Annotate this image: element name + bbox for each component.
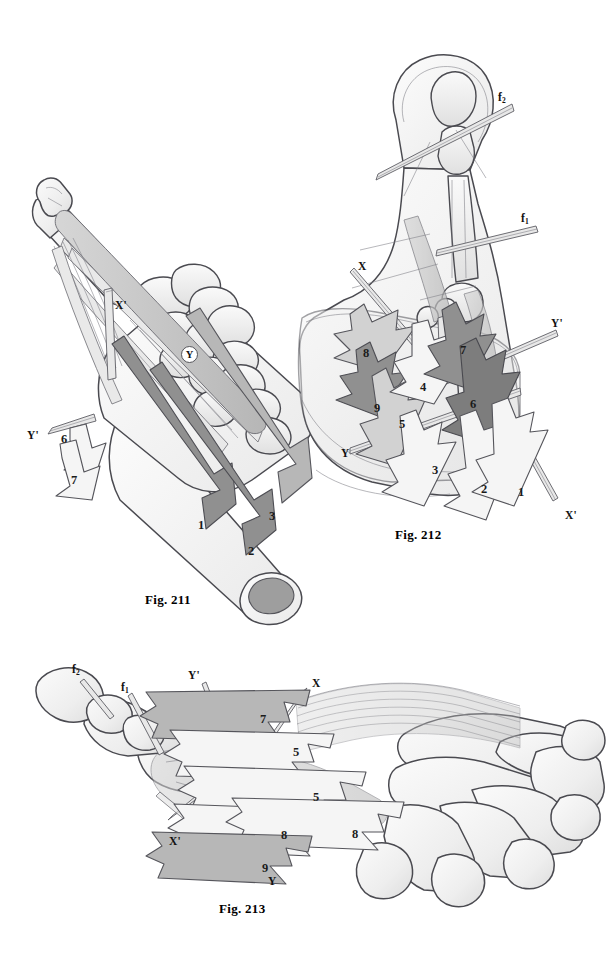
axis-label-y-211: Y: [181, 346, 198, 363]
axis-label-x-213: X: [312, 678, 321, 690]
axis-label-y-213: Y: [268, 876, 277, 888]
force-arrow-label-3-212: 3: [432, 464, 438, 477]
fig-213-drawing: [36, 668, 605, 907]
force-arrow-label-8-213-b: 8: [352, 828, 358, 841]
axis-label-y-212: Y: [341, 448, 350, 460]
fig-212-drawing: [299, 55, 558, 520]
axis-label-y-prime-212: Y': [551, 318, 563, 330]
force-arrow-label-1-212: 1: [518, 486, 524, 499]
force-arrow-label-4-212: 4: [420, 381, 426, 394]
axis-label-x-prime-211: X': [115, 300, 127, 312]
axis-label-f2-213: f2: [72, 664, 80, 677]
force-arrow-label-5-213-a: 5: [293, 746, 299, 759]
force-arrow-label-2-212: 2: [481, 483, 487, 496]
axis-label-x-prime-212: X': [565, 510, 577, 522]
figure-caption-213: Fig. 213: [219, 901, 265, 917]
force-arrow-label-8-213-a: 8: [281, 829, 287, 842]
force-arrow-label-7-212: 7: [460, 344, 466, 357]
axis-label-f2-212: f2: [498, 92, 506, 105]
force-arrow-label-3-211: 3: [269, 510, 275, 523]
axis-label-f1-212: f1: [521, 213, 529, 226]
figure-caption-211: Fig. 211: [145, 592, 191, 608]
force-arrow-label-7-211: 7: [71, 474, 77, 487]
axis-label-y-prime-213: Y': [188, 670, 200, 682]
force-arrow-label-1-211: 1: [198, 519, 204, 532]
force-arrow-label-2-211: 2: [248, 545, 254, 558]
force-arrow-label-5-212: 5: [399, 418, 405, 431]
anatomy-plate: .o {stroke:#4a4a50; fill:none; stroke-li…: [0, 0, 606, 971]
force-arrow-label-7-213: 7: [260, 713, 266, 726]
force-arrow-label-8-212: 8: [363, 347, 369, 360]
force-arrow-label-5-213-b: 5: [313, 791, 319, 804]
force-arrow-label-6-212: 6: [470, 398, 476, 411]
figure-caption-212: Fig. 212: [395, 527, 441, 543]
force-arrow-label-6-211: 6: [61, 433, 67, 446]
axis-label-f1-213: f1: [121, 682, 129, 695]
fig-211-drawing: [33, 178, 314, 625]
illustration-layer: .o {stroke:#4a4a50; fill:none; stroke-li…: [0, 0, 606, 971]
force-arrow-label-9-213: 9: [262, 862, 268, 875]
axis-label-x-prime-213: X': [169, 836, 181, 848]
force-arrow-label-9-212: 9: [374, 402, 380, 415]
axis-label-x-212: X: [358, 261, 367, 273]
axis-label-y-prime-211: Y': [27, 430, 39, 442]
